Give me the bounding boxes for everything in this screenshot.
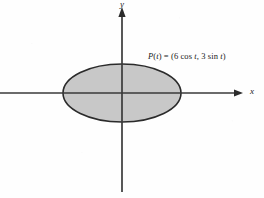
equation-equals-open: = (6 cos [162,51,195,61]
equation-close: ) [223,51,226,61]
parametric-ellipse-figure: y x P(t) = (6 cos t, 3 sin t) [0,0,264,198]
curve-equation-label: P(t) = (6 cos t, 3 sin t) [148,52,226,61]
x-axis-label: x [250,87,254,96]
y-axis-label: y [120,0,124,9]
x-axis-arrowhead [234,90,243,97]
figure-canvas [0,0,264,198]
equation-separator: , 3 sin [197,51,220,61]
